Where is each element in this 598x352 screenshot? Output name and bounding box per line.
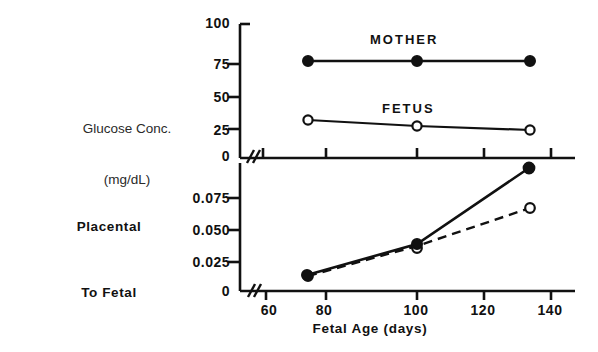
data-point (523, 162, 534, 173)
figure: Glucose Conc. (mg/dL) Placental To Fetal… (0, 0, 598, 352)
data-point (302, 270, 312, 280)
series-mother (303, 56, 535, 66)
data-point (412, 121, 421, 130)
data-point (303, 56, 313, 66)
data-point (303, 115, 312, 124)
data-point (525, 203, 535, 213)
data-point (412, 239, 422, 249)
data-point (525, 56, 535, 66)
series-fetus (303, 115, 534, 134)
upper-x-axis-break-icon (247, 150, 260, 163)
upper-panel-axes (228, 24, 575, 158)
data-point (412, 56, 422, 66)
data-point (525, 125, 534, 134)
lower-panel-axes (228, 163, 575, 300)
series-transfer-solid (302, 162, 535, 280)
plot-artwork (0, 0, 598, 352)
